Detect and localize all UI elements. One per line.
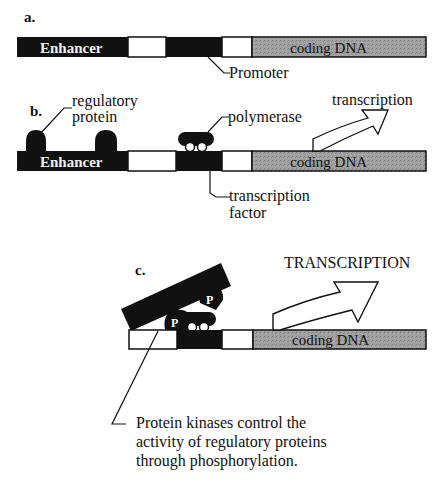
transcription-arrow-icon — [313, 110, 388, 151]
transcription-factor-label: transcription — [229, 187, 310, 205]
panel-c-caption: c. — [135, 262, 146, 278]
polymerase-label: polymerase — [228, 108, 302, 126]
promoter-region — [177, 330, 222, 349]
panel-a: a. Enhancer coding DNA Promoter — [17, 9, 426, 81]
transcription-factor-leader-line — [210, 171, 230, 197]
kinase-note-line-3: through phosphorylation. — [136, 452, 298, 470]
promoter-leader-line — [208, 57, 230, 73]
panel-b-caption: b. — [30, 103, 42, 119]
regulatory-protein-icon — [26, 130, 46, 152]
dna-strand-a: Enhancer coding DNA — [17, 37, 426, 57]
gene-regulation-diagram: a. Enhancer coding DNA Promoter b. regul… — [0, 0, 448, 484]
spacer-region — [222, 37, 252, 57]
promoter-region — [166, 37, 222, 57]
kinase-note-line-2: activity of regulatory proteins — [136, 433, 327, 451]
spacer-region — [128, 37, 166, 57]
coding-dna-label: coding DNA — [292, 332, 369, 348]
panel-b: b. regulatory protein Enhancer coding DN… — [17, 91, 426, 221]
regulatory-protein-label-2: protein — [72, 108, 117, 126]
spacer-region — [222, 330, 253, 349]
promoter-region — [176, 151, 222, 171]
panel-c: c. TRANSCRIPTION P P coding DNA Protein … — [112, 254, 426, 470]
kinase-note-line-1: Protein kinases control the — [136, 414, 306, 431]
phosphate-label-2: P — [206, 293, 213, 307]
regulatory-protein-leader-line — [40, 108, 72, 134]
dna-strand-b: Enhancer coding DNA — [17, 151, 426, 171]
polymerase-icon — [178, 132, 214, 152]
dna-strand-c: coding DNA — [129, 330, 426, 349]
spacer-region — [128, 151, 176, 171]
coding-dna-label: coding DNA — [290, 40, 367, 56]
phosphate-label-1: P — [171, 316, 178, 330]
transcription-factor-icon — [198, 143, 207, 152]
transcription-label: transcription — [332, 91, 413, 109]
transcription-caps-label: TRANSCRIPTION — [284, 254, 411, 271]
spacer-region — [222, 151, 252, 171]
coding-dna-label: coding DNA — [290, 154, 367, 170]
transcription-factor-icon — [186, 143, 195, 152]
transcription-arrow-icon — [273, 282, 378, 330]
enhancer-label: Enhancer — [40, 40, 103, 56]
transcription-factor-label-2: factor — [229, 204, 267, 221]
promoter-label: Promoter — [229, 64, 289, 81]
enhancer-region — [129, 330, 177, 349]
panel-a-caption: a. — [24, 9, 36, 25]
regulatory-protein-icon — [95, 130, 117, 152]
enhancer-label: Enhancer — [40, 154, 103, 170]
polymerase-leader-line — [208, 117, 229, 132]
